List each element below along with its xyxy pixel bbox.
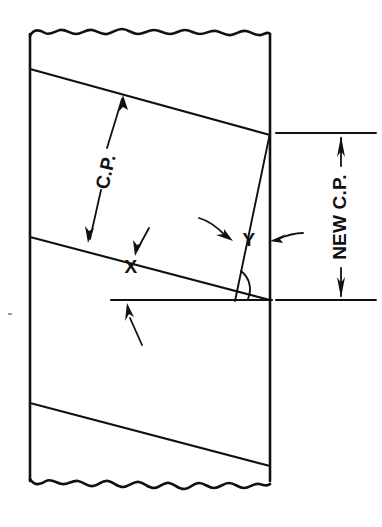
thread-line-middle	[30, 237, 270, 300]
workpiece-outline	[30, 29, 270, 489]
new-helix-line	[235, 133, 270, 301]
scan-speck-left	[8, 313, 12, 315]
thread-helix-lines	[30, 69, 270, 466]
bottom-break-line	[30, 479, 270, 489]
technical-diagram-canvas: C.P. X Y	[0, 0, 382, 527]
angle-y-arrowhead-left	[216, 229, 233, 241]
top-break-line	[30, 29, 270, 36]
new-helix-line-group	[235, 133, 270, 301]
scan-artifacts	[8, 313, 12, 315]
cp-label: C.P.	[91, 152, 119, 191]
angle-x-group: X	[125, 228, 149, 345]
new-cp-dimension-group: NEW C.P.	[276, 133, 376, 300]
angle-x-label: X	[125, 256, 138, 277]
angle-y-arrowhead-right	[270, 234, 286, 243]
angle-y-leader-left	[199, 218, 226, 236]
thread-pitch-diagram: C.P. X Y	[0, 0, 382, 527]
angle-y-label: Y	[243, 229, 256, 250]
angle-x-leader-lower	[130, 318, 142, 345]
thread-line-lower	[30, 403, 270, 466]
angle-y-arc	[241, 271, 250, 299]
new-cp-label: NEW C.P.	[329, 174, 350, 260]
thread-line-upper	[30, 69, 270, 135]
cp-dimension-group: C.P.	[85, 95, 128, 243]
cp-arrowhead-upper	[118, 95, 128, 112]
